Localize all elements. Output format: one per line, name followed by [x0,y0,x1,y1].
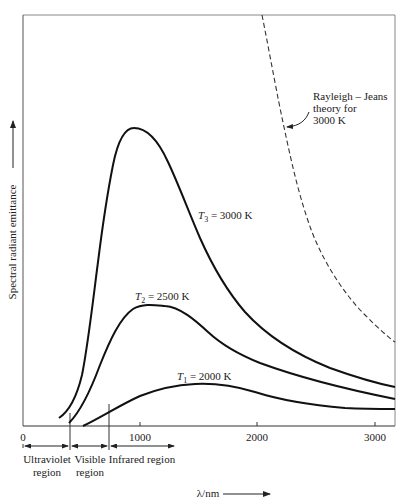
curve-t2-2500k [69,305,395,423]
rj-pointer-arrow-icon [287,112,309,127]
label-t1: T1 = 2000 K [177,370,232,385]
x-tick-2000: 2000 [246,431,269,443]
x-tick-labels: 0 1000 2000 3000 [20,431,386,443]
rayleigh-jeans-annotation: Rayleigh – Jeans theory for 3000 K [287,90,388,127]
x-tick-1000: 1000 [129,431,152,443]
region-arrows [23,444,174,448]
region-labels: Ultraviolet region Visible region Infrar… [23,453,175,478]
region-dividers [70,404,109,450]
region-label-visible-2: region [76,466,105,478]
region-label-infrared: Infrared region [109,453,176,465]
label-t3: T3 = 3000 K [198,209,253,224]
region-label-visible-1: Visible [74,453,105,465]
x-axis-label: λ/nm [197,487,270,499]
label-t2: T2 = 2500 K [135,290,190,305]
y-axis-label: Spectral radiant emittance [6,121,18,299]
region-label-uv-1: Ultraviolet [23,453,71,465]
rj-line-1: Rayleigh – Jeans [313,90,388,102]
rj-line-2: theory for [313,102,357,114]
x-tick-0: 0 [20,431,26,443]
x-tick-3000: 3000 [364,431,387,443]
rj-line-3: 3000 K [313,114,346,126]
x-axis-title: λ/nm [197,487,220,499]
curve-rayleigh-jeans [262,15,395,342]
y-axis-title: Spectral radiant emittance [6,184,18,299]
blackbody-radiation-chart: 0 1000 2000 3000 Ultraviolet region Visi… [0,0,409,504]
region-label-uv-2: region [33,466,62,478]
curve-t1-2000k [83,384,395,426]
